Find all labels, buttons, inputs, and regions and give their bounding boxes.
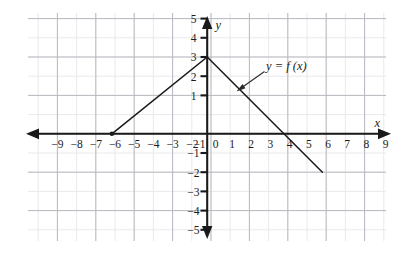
y-tick-label: −4	[187, 205, 199, 217]
y-tick-label: −2	[187, 167, 199, 179]
x-tick-label: 8	[364, 138, 370, 150]
x-tick-label: 7	[344, 138, 350, 150]
x-tick-label: −6	[109, 138, 121, 150]
y-tick-label: 2	[191, 71, 197, 83]
x-tick-label: −7	[90, 138, 102, 150]
y-tick-label: −1	[187, 147, 199, 159]
y-tick-label: −5	[187, 224, 199, 236]
x-tick-label: −8	[70, 138, 82, 150]
y-axis-label: y	[214, 18, 222, 32]
x-tick-label: 4	[287, 138, 293, 150]
x-tick-label: −9	[51, 138, 63, 150]
x-tick-label: 6	[325, 138, 331, 150]
x-tick-label: 3	[268, 138, 274, 150]
x-tick-label: 5	[306, 138, 312, 150]
figure-background	[0, 0, 408, 261]
x-tick-label: 1	[229, 138, 235, 150]
function-label: y = f (x)	[264, 59, 307, 73]
x-tick-label: −5	[128, 138, 140, 150]
y-tick-label: −3	[187, 186, 199, 198]
x-tick-label: 9	[383, 138, 389, 150]
x-tick-label: 2	[248, 138, 254, 150]
coordinate-plane-svg: −9 −8 −7 −6 −5 −4 −3 −2 −1 0 1 2 3 4 5 6…	[0, 0, 408, 261]
x-axis-label: x	[374, 116, 381, 130]
x-tick-label: −4	[147, 138, 159, 150]
graph-figure: −9 −8 −7 −6 −5 −4 −3 −2 −1 0 1 2 3 4 5 6…	[0, 0, 408, 261]
y-tick-label: 4	[191, 32, 197, 44]
y-tick-label: 1	[191, 90, 197, 102]
y-tick-label: 3	[191, 51, 197, 63]
x-tick-label: 0	[213, 138, 219, 150]
left-endpoint-marker	[110, 132, 115, 137]
x-tick-label: −3	[166, 138, 178, 150]
y-tick-label: 5	[191, 13, 197, 25]
